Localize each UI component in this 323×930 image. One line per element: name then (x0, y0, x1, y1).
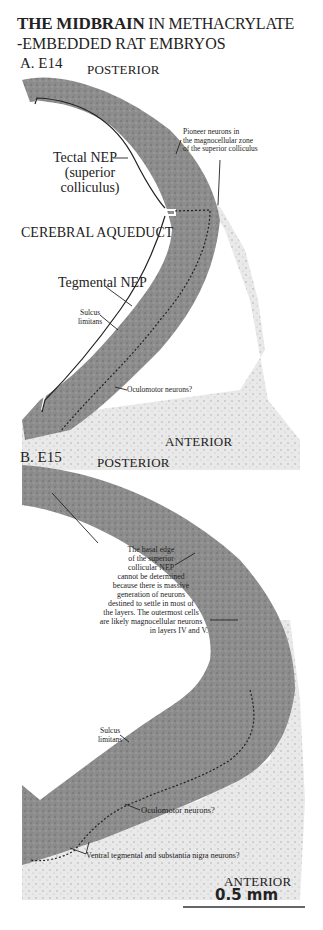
tegmental-nep-label: Tegmental NEP (58, 275, 147, 290)
cerebral-aqueduct-label: CEREBRAL AQUEDUCT (21, 225, 173, 240)
sulcus-limitans-line: limitans (98, 736, 122, 745)
oculomotor-a-label: Oculomotor neurons? (127, 386, 192, 395)
pioneer-leader-2 (218, 160, 220, 205)
basal-edge-line: The basal edge (86, 545, 216, 554)
basal-edge-line: the layers. The outermost cells (86, 608, 216, 617)
basal-edge-line: of the superior (86, 554, 216, 563)
basal-edge-line: generation of neurons (86, 590, 216, 599)
ventral-tegmental-label: Ventral tegmental and substantia nigra n… (86, 852, 240, 861)
panel-a-tissue (22, 77, 300, 470)
oculomotor-b-label: Oculomotor neurons? (141, 806, 215, 815)
pioneer-note-line: of the superior colliculus (183, 145, 258, 154)
sulcus-limitans-b: Sulcus limitans (98, 727, 122, 744)
figure-title-bold: THE MIDBRAIN (17, 14, 144, 33)
basal-edge-line: destined to settle in most of (86, 599, 216, 608)
panel-b-label: B. E15 (20, 449, 62, 465)
figure-title-rest: IN METHACRYLATE (144, 15, 294, 32)
panel-a-label: A. E14 (20, 55, 63, 71)
figure-title: THE MIDBRAIN IN METHACRYLATE (17, 15, 294, 33)
sulcus-limitans-a: Sulcus limitans (78, 309, 102, 326)
panel-b-posterior: POSTERIOR (97, 455, 170, 471)
basal-edge-line: in layers IV and V. (86, 626, 216, 635)
tectal-nep-sub: (superior colliculus) (60, 165, 120, 195)
basal-edge-line: collicular NEP (86, 563, 216, 572)
tectal-nep-label: Tectal NEP (53, 150, 113, 165)
panel-b-tissue (22, 465, 305, 900)
tectal-nep-line: Tectal NEP (53, 150, 113, 165)
tectal-nep-line: (superior (60, 165, 120, 180)
tectal-nep-line: colliculus) (60, 180, 120, 195)
basal-edge-note: The basal edge of the superior collicula… (86, 545, 216, 635)
panel-a-anterior: ANTERIOR (165, 434, 232, 450)
sulcus-limitans-line: limitans (78, 318, 102, 327)
pioneer-note: Pioneer neurons in the magnocellular zon… (183, 128, 258, 154)
basal-edge-line: because there is massive (86, 581, 216, 590)
scale-bar-label: 0.5 mm (215, 886, 278, 904)
panel-a-posterior: POSTERIOR (87, 62, 160, 78)
figure-subtitle: -EMBEDDED RAT EMBRYOS (17, 35, 226, 53)
basal-edge-line: cannot be determined (86, 572, 216, 581)
basal-edge-line: are likely magnocellular neurons (86, 617, 216, 626)
